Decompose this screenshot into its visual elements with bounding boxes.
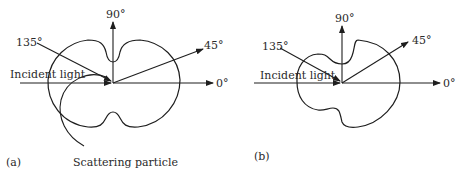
- label-90-deg: 90°: [106, 8, 126, 21]
- arrow-45-deg: [113, 49, 203, 83]
- label-scattering-particle: Scattering particle: [73, 156, 178, 169]
- arrow-45-deg: [342, 42, 408, 83]
- panel-b: 90° 135° 45° 0° Incident light (b): [254, 12, 456, 163]
- label-135-deg: 135°: [16, 36, 43, 49]
- caption-b: (b): [254, 150, 270, 163]
- scattering-pattern-symmetric: [48, 40, 180, 127]
- label-45-deg: 45°: [412, 34, 432, 47]
- particle-pointer-curve: [60, 75, 106, 146]
- label-90-deg: 90°: [335, 12, 355, 25]
- scattering-pattern-asymmetric: [297, 40, 400, 127]
- scattering-diagram: 90° 135° 45° 0° Incident light Scatterin…: [0, 0, 463, 172]
- panel-a: 90° 135° 45° 0° Incident light Scatterin…: [6, 8, 229, 169]
- label-0-deg: 0°: [443, 77, 456, 90]
- label-45-deg: 45°: [204, 39, 224, 52]
- label-0-deg: 0°: [216, 77, 229, 90]
- label-135-deg: 135°: [262, 40, 289, 53]
- label-incident-light: Incident light: [10, 68, 86, 81]
- caption-a: (a): [6, 156, 21, 169]
- label-incident-light: Incident light: [260, 69, 336, 82]
